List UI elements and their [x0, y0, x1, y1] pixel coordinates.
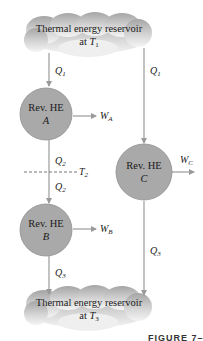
work-c-label: WC [180, 155, 193, 167]
engine-c-label: Rev. HE C [116, 159, 172, 185]
engine-a-label: Rev. HE A [20, 101, 72, 127]
q2-lower-label: Q2 [55, 182, 66, 194]
bottom-reservoir-label: Thermal energy reservoir at T3 [28, 296, 150, 326]
q1-right-label: Q1 [150, 66, 161, 78]
top-reservoir-label: Thermal energy reservoir at T1 [28, 22, 150, 52]
engine-b-label: Rev. HE B [20, 217, 72, 243]
t2-label: T2 [79, 167, 88, 179]
figure-caption: FIGURE 7–10 [148, 333, 203, 341]
bottom-reservoir-temp: at T3 [28, 309, 150, 326]
q3-left-label: Q3 [55, 268, 66, 280]
q1-left-label: Q1 [55, 66, 66, 78]
q3-right-label: Q3 [150, 246, 161, 258]
work-a-label: WA [100, 111, 113, 123]
q2-upper-label: Q2 [55, 156, 66, 168]
bottom-reservoir-title: Thermal energy reservoir [28, 296, 150, 309]
work-b-label: WB [100, 224, 113, 236]
top-reservoir-temp: at T1 [28, 35, 150, 52]
top-reservoir-title: Thermal energy reservoir [28, 22, 150, 35]
